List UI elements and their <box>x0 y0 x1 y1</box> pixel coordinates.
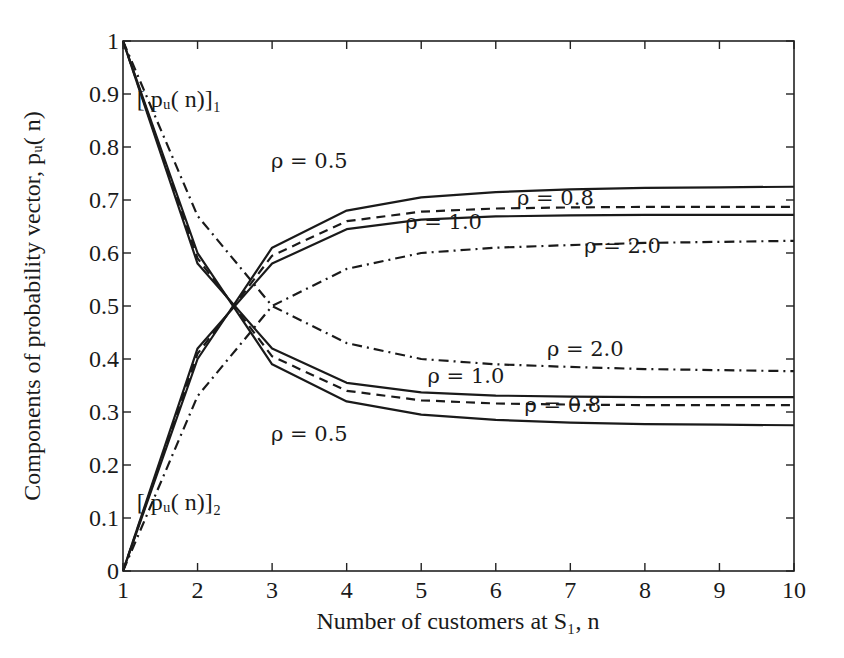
rho-label: ρ = 0.8 <box>525 393 602 417</box>
rho-label: ρ = 0.5 <box>271 149 348 173</box>
rho-label: ρ = 1.0 <box>405 210 482 234</box>
x-axis-title: Number of customers at S₁, n <box>317 608 600 634</box>
y-tick-label: 0.2 <box>89 452 119 478</box>
probability-vector-chart: 1234567891000.10.20.30.40.50.60.70.80.91… <box>0 0 844 658</box>
x-tick-label: 4 <box>341 577 353 603</box>
series-line-5 <box>123 207 794 571</box>
plot-frame <box>123 41 794 571</box>
x-tick-label: 8 <box>639 577 651 603</box>
y-tick-label: 0.4 <box>89 346 119 372</box>
axis-tick-labels: 1234567891000.10.20.30.40.50.60.70.80.91 <box>89 28 806 603</box>
axis-ticks <box>123 41 794 571</box>
rho-label: ρ = 1.0 <box>428 364 505 388</box>
y-tick-label: 0.3 <box>89 399 119 425</box>
y-axis-title: Components of probability vector, pᵤ( n) <box>19 111 45 501</box>
component-label: [ pᵤ( n)]₁ <box>137 86 221 112</box>
y-tick-label: 1 <box>107 28 119 54</box>
rho-label: ρ = 2.0 <box>584 234 661 258</box>
y-tick-label: 0.8 <box>89 134 119 160</box>
x-tick-label: 7 <box>564 577 576 603</box>
component-labels: [ pᵤ( n)]₁[ pᵤ( n)]₂ <box>137 86 221 515</box>
x-tick-label: 6 <box>490 577 502 603</box>
rho-label: ρ = 2.0 <box>547 337 624 361</box>
y-tick-label: 0.6 <box>89 240 119 266</box>
rho-label: ρ = 0.8 <box>517 186 594 210</box>
component-label: [ pᵤ( n)]₂ <box>137 489 221 515</box>
y-tick-label: 0 <box>107 558 119 584</box>
y-tick-label: 0.7 <box>89 187 119 213</box>
x-tick-label: 5 <box>415 577 427 603</box>
x-tick-label: 10 <box>782 577 806 603</box>
x-tick-label: 3 <box>266 577 278 603</box>
series-lines <box>123 41 794 571</box>
x-tick-label: 9 <box>713 577 725 603</box>
y-tick-label: 0.1 <box>89 505 119 531</box>
y-tick-label: 0.5 <box>89 293 119 319</box>
y-tick-label: 0.9 <box>89 81 119 107</box>
x-tick-label: 2 <box>192 577 204 603</box>
rho-label: ρ = 0.5 <box>271 422 348 446</box>
